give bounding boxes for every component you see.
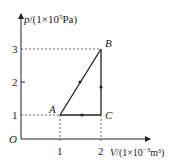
x-tick-2: 2 (98, 146, 104, 157)
y-tick-2: 2 (12, 77, 18, 88)
point-b-label: B (105, 38, 112, 49)
point-a-label: A (49, 104, 56, 115)
y-axis-label: p/(1×105Pa) (24, 14, 77, 25)
arrow-bc-icon (100, 86, 103, 89)
origin-label: O (9, 134, 17, 145)
y-tick-3: 3 (12, 44, 18, 55)
x-tick-1: 1 (57, 146, 63, 157)
arrow-ab-icon (79, 81, 82, 84)
arrow-ca-icon (81, 114, 84, 117)
pv-diagram: p/(1×105Pa) 3 2 1 O 1 2 V/(1×10−3m³) A B… (0, 0, 175, 166)
point-c-label: C (105, 110, 112, 121)
y-tick-1: 1 (12, 110, 18, 121)
dashed-guides (21, 49, 101, 143)
x-axis-label: V/(1×10−3m³) (110, 147, 164, 158)
